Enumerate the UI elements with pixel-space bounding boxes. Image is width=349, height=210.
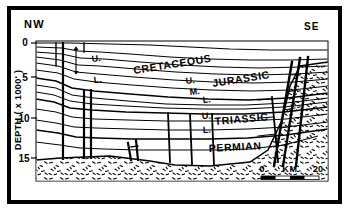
scale-bar-seg-3 <box>290 176 305 179</box>
orientation-label-se: SE <box>304 21 320 32</box>
orientation-label-nw: NW <box>24 18 45 30</box>
triassic-lower-label: L. <box>203 125 212 135</box>
scale-end-label: 20 <box>313 164 323 174</box>
scale-bar-seg-1 <box>261 176 276 179</box>
jurassic-upper-label: U. <box>185 75 195 86</box>
triassic-upper-label: U. <box>202 111 212 121</box>
cross-section-svg: NW SE DEPTH ( x 1000' ) 0 5 10 15 CRETAC… <box>0 0 349 210</box>
depth-tick-0: 0 <box>22 37 28 48</box>
geologic-cross-section-figure: NW SE DEPTH ( x 1000' ) 0 5 10 15 CRETAC… <box>0 0 349 210</box>
scale-start-label: 0 <box>259 164 264 174</box>
cretaceous-lower-label: L. <box>93 74 102 85</box>
depth-tick-5: 5 <box>22 72 28 83</box>
scale-unit-label: KM <box>282 164 298 174</box>
depth-tick-10: 10 <box>18 113 30 124</box>
fault-splay-tie <box>131 146 138 147</box>
depth-tick-15: 15 <box>18 153 30 164</box>
cretaceous-upper-label: U. <box>91 53 101 64</box>
jurassic-lower-label: L. <box>202 94 211 105</box>
jurassic-middle-label: M. <box>189 86 200 97</box>
